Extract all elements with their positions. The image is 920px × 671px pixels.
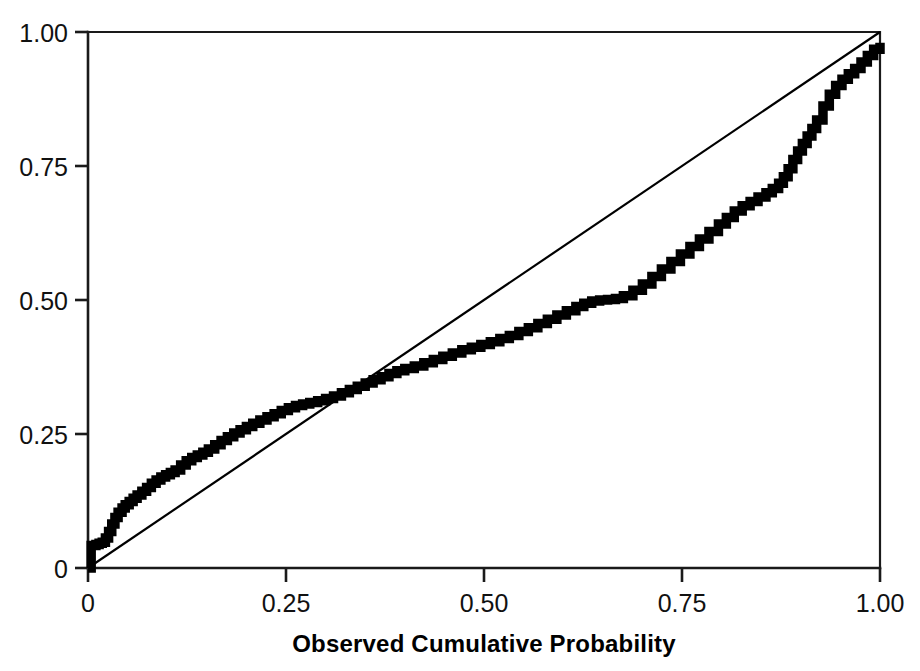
pp-plot-figure: 1.00 0.75 0.50 0.25 0 0 0.25 0.50 0.75 1…	[0, 0, 920, 671]
x-tick-label-0.75: 0.75	[658, 589, 707, 617]
x-axis: 0 0.25 0.50 0.75 1.00	[81, 568, 904, 617]
y-tick-label-1.00: 1.00	[19, 19, 68, 47]
x-axis-title: Observed Cumulative Probability	[292, 630, 676, 657]
y-tick-label-0.75: 0.75	[19, 153, 68, 181]
x-tick-label-0: 0	[81, 589, 95, 617]
y-tick-label-0: 0	[54, 555, 68, 583]
y-tick-label-0.25: 0.25	[19, 421, 68, 449]
reference-diagonal-line	[88, 32, 880, 568]
y-tick-label-0.50: 0.50	[19, 287, 68, 315]
x-tick-label-0.25: 0.25	[262, 589, 311, 617]
chart-canvas: 1.00 0.75 0.50 0.25 0 0 0.25 0.50 0.75 1…	[0, 0, 920, 671]
x-tick-label-0.50: 0.50	[460, 589, 509, 617]
x-tick-label-1.00: 1.00	[856, 589, 905, 617]
y-axis: 1.00 0.75 0.50 0.25 0	[19, 19, 88, 583]
data-curve-expected-cumulative-probability	[88, 43, 880, 568]
